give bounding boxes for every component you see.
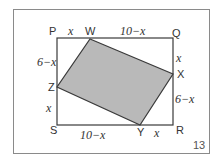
shaded-quadrilateral-WXYZ — [57, 39, 173, 125]
segment-label-PW: x — [67, 24, 74, 38]
segment-label-YS: 10−x — [80, 128, 106, 142]
figure-number: 13 — [193, 139, 205, 151]
segment-label-SZ: x — [45, 101, 52, 115]
segment-label-XR: 6−x — [175, 92, 195, 106]
label-P: P — [49, 25, 56, 37]
label-Z: Z — [48, 81, 55, 93]
label-R: R — [176, 124, 184, 136]
segment-label-QX: x — [175, 51, 182, 65]
label-Y: Y — [137, 126, 145, 138]
label-X: X — [177, 68, 185, 80]
segment-label-WQ: 10−x — [120, 24, 146, 38]
segment-label-ZP: 6−x — [37, 55, 57, 69]
segment-label-RY: x — [153, 126, 160, 140]
diagram-canvas: P W Q X R Y S Z x 10−x x 6−x x 10−x x 6−… — [0, 0, 216, 165]
label-Q: Q — [172, 27, 181, 39]
label-W: W — [85, 25, 96, 37]
label-S: S — [50, 124, 57, 136]
